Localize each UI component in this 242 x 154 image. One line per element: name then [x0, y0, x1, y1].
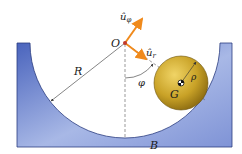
label-R: R — [73, 65, 82, 78]
label-unit-phi: ûφ — [120, 11, 131, 24]
label-origin: O — [111, 37, 120, 50]
bowl-ball-diagram: O R φ G ρ B ûφ ûr — [0, 0, 242, 154]
ball — [154, 56, 208, 110]
origin-point-icon — [123, 41, 127, 45]
label-G: G — [170, 88, 179, 101]
label-unit-r: ûr — [146, 47, 156, 60]
radius-R-line — [51, 43, 125, 101]
label-phi: φ — [138, 77, 145, 88]
unit-r-vector — [125, 43, 146, 59]
label-rho: ρ — [190, 72, 197, 82]
angle-phi-arc — [125, 64, 153, 78]
label-B: B — [149, 139, 158, 152]
